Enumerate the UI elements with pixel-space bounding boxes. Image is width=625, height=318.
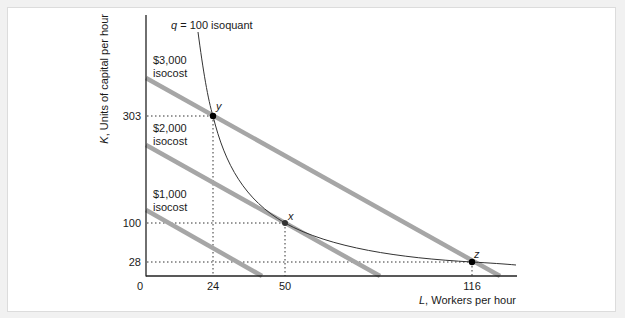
guide-lines [147,116,472,276]
isocost-2000-word: isocost [153,135,187,147]
x-tick-0: 0 [137,280,143,292]
isocost-1000-line [146,210,262,276]
isocost-3000-word: isocost [153,67,187,79]
point-x-label: x [287,210,294,222]
isocost-1000-cost: $1,000 [153,188,187,200]
isocost-3000-cost: $3,000 [153,54,187,66]
isoquant-isocost-chart: y x z q = 100 isoquant $3,000 isocost $2… [0,0,625,318]
point-y-marker [210,113,216,119]
x-axis-title: L, Workers per hour [419,294,516,306]
isocost-1000-word: isocost [153,201,187,213]
isoquant-curve [198,32,516,265]
isocost-2000-cost: $2,000 [153,122,187,134]
y-tick-28: 28 [129,256,141,268]
y-tick-303: 303 [123,110,141,122]
isoquant-label: q = 100 isoquant [171,19,253,31]
point-z-label: z [473,248,480,260]
y-axis-title: K, Units of capital per hour [98,14,110,144]
x-tick-116: 116 [463,280,481,292]
y-tick-100: 100 [123,217,141,229]
isocost-lines [146,78,500,276]
x-tick-24: 24 [207,280,219,292]
point-y-label: y [215,100,223,112]
x-tick-50: 50 [279,280,291,292]
